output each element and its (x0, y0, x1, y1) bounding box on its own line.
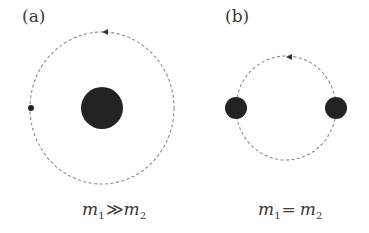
light-mass (28, 105, 34, 111)
orbit-diagram: (a) m1≫m2 (b) m1=m2 (0, 0, 369, 233)
direction-arrow-icon (286, 54, 292, 60)
orbit-path-b (236, 56, 336, 160)
panel-b-label: (b) (225, 6, 249, 26)
heavy-mass (81, 87, 123, 129)
formula-b: m1=m2 (258, 199, 322, 221)
direction-arrow-icon (102, 29, 108, 35)
mass-2 (325, 97, 347, 119)
panel-a-label: (a) (22, 6, 45, 26)
panel-b: (b) m1=m2 (225, 6, 347, 221)
mass-1 (225, 97, 247, 119)
formula-a: m1≫m2 (82, 199, 146, 221)
panel-a: (a) m1≫m2 (22, 6, 174, 221)
